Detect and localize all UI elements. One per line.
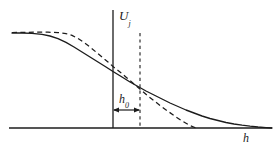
h0-interval-label: h0 <box>119 93 129 108</box>
solid-curve <box>12 33 272 128</box>
y-axis-label: Uj <box>119 9 131 26</box>
figure-container: Uj h h0 <box>0 0 278 151</box>
plot-canvas <box>0 0 278 151</box>
x-axis-label: h <box>243 132 249 144</box>
h0-label-subscript: 0 <box>125 101 129 110</box>
dashed-curve <box>12 32 196 128</box>
y-axis-label-subscript: j <box>128 19 130 28</box>
y-axis-label-base: U <box>119 8 128 23</box>
